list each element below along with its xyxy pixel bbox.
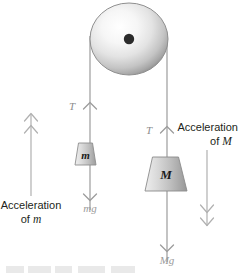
tension-label-M: T — [146, 124, 153, 136]
acceleration-caption-M-line1: Acceleration — [177, 121, 238, 133]
atwood-machine-diagram: T m mg Acceleration of m T — [0, 0, 241, 274]
cropped-caption-strip — [6, 266, 156, 273]
weight-label-Mg: Mg — [159, 254, 175, 266]
weight-label-mg: mg — [83, 202, 97, 214]
mass-label-m: m — [81, 149, 90, 161]
acceleration-arrow-M — [201, 150, 214, 226]
acceleration-caption-m-line1: Acceleration — [1, 199, 62, 211]
mass-label-M: M — [159, 167, 172, 182]
acceleration-caption-M-prefix: of — [210, 135, 222, 147]
acceleration-caption-M-symbol: M — [221, 135, 233, 147]
mass-block-m: m — [75, 143, 96, 165]
pulley-axle-icon — [124, 34, 134, 44]
acceleration-arrow-m — [25, 114, 38, 197]
pulley-wheel — [90, 3, 168, 75]
figure-canvas: T m mg Acceleration of m T — [0, 0, 241, 274]
acceleration-caption-M-line2: of M — [210, 135, 233, 147]
acceleration-caption-m-prefix: of — [21, 213, 33, 225]
acceleration-caption-m-symbol: m — [33, 213, 41, 225]
mass-block-M: M — [145, 157, 187, 191]
acceleration-caption-m-line2: of m — [21, 213, 42, 225]
tension-label-m: T — [69, 100, 76, 112]
